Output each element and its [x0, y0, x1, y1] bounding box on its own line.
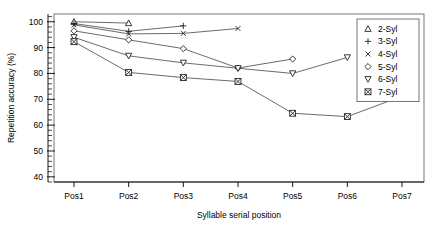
- legend-label: 6-Syl: [378, 74, 397, 84]
- legend-label: 2-Syl: [378, 24, 397, 34]
- y-axis-tick-label: 70: [34, 94, 44, 104]
- y-axis-tick-label: 90: [34, 43, 44, 53]
- x-axis-tick-label: Pos7: [392, 191, 412, 201]
- x-axis-title: Syllable serial position: [197, 210, 281, 220]
- y-axis-tick-label: 80: [34, 68, 44, 78]
- x-axis-tick-label: Pos3: [174, 191, 194, 201]
- x-axis-tick-label: Pos4: [228, 191, 248, 201]
- legend-label: 5-Syl: [378, 62, 397, 72]
- chart-figure: 405060708090100 Pos1Pos2Pos3Pos4Pos5Pos6…: [0, 0, 436, 241]
- data-point-7-syl-pos3: [180, 75, 186, 81]
- x-axis-tick-label: Pos1: [64, 191, 84, 201]
- x-axis-tick-label: Pos5: [283, 191, 303, 201]
- y-axis-tick-label: 100: [29, 17, 43, 27]
- legend-label: 3-Syl: [378, 36, 397, 46]
- y-axis-tick-label: 40: [34, 172, 44, 182]
- data-point-7-syl-pos5: [290, 110, 296, 116]
- legend-label: 7-Syl: [378, 87, 397, 97]
- legend-marker-crossed-square-icon: [365, 89, 371, 95]
- y-axis-tick-label: 50: [34, 146, 44, 156]
- data-point-7-syl-pos1: [71, 39, 77, 45]
- y-axis-tick-label: 60: [34, 120, 44, 130]
- chart-legend: 2-Syl3-Syl4-Syl5-Syl6-Syl7-Syl: [357, 19, 419, 102]
- data-point-7-syl-pos4: [235, 79, 241, 85]
- y-axis-title: Repetition accuracy (%): [6, 53, 16, 143]
- data-point-7-syl-pos2: [126, 69, 132, 75]
- legend-label: 4-Syl: [378, 49, 397, 59]
- x-axis-tick-label: Pos6: [338, 191, 358, 201]
- data-point-7-syl-pos6: [344, 114, 350, 120]
- repetition-accuracy-line-chart: 405060708090100 Pos1Pos2Pos3Pos4Pos5Pos6…: [0, 0, 436, 241]
- x-axis-tick-label: Pos2: [119, 191, 139, 201]
